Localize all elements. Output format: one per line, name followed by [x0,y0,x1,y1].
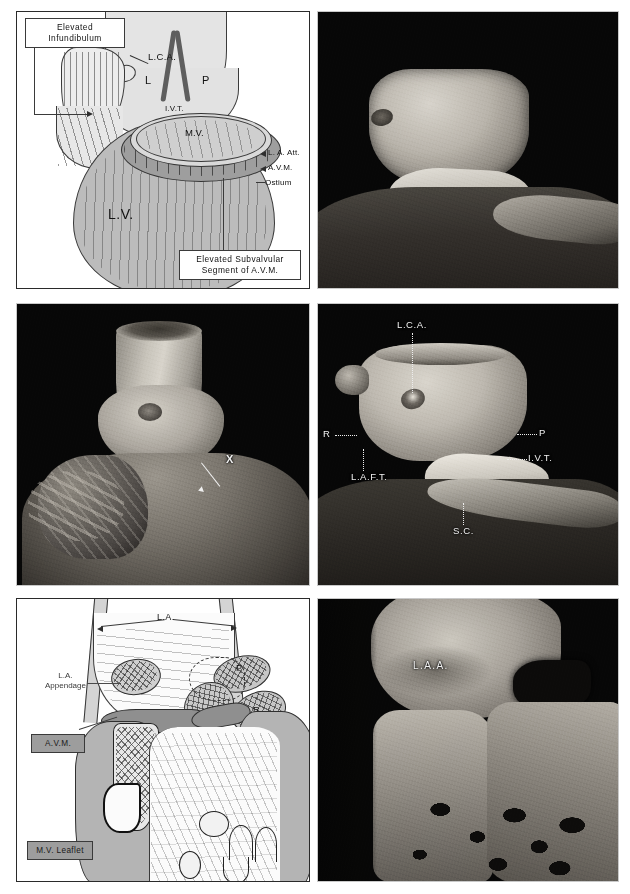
label-ivt: I.V.T. [165,104,184,113]
leader-elevated-infundibulum-arrow [87,111,93,117]
chordae-curl-1 [199,811,229,837]
chordae-hook-1 [229,825,253,860]
label-l: L [145,74,151,86]
arrow-la-att [260,151,266,157]
panel-bottom-right-photo: L.A.A. [317,598,619,882]
leader-elevated-subvalvular [223,178,224,250]
label-lca: L.C.A. [148,51,176,62]
label-la-appendage: L.A. Appendage [45,671,86,691]
label-elevated-subvalvular: Elevated Subvalvular Segment of A.V.M. [179,250,301,280]
label-ostium: Ostium [265,178,292,187]
label-elevated-subvalvular-line1: Elevated Subvalvular [185,254,295,265]
label-elevated-infundibulum: Elevated Infundibulum [25,18,125,48]
panel-top-left-diagram: Elevated Infundibulum L.C.A. L P I.V.T. … [16,11,310,289]
photo-grain-overlay-bottom-right [317,598,619,882]
la-arrow-head-left [97,626,103,632]
figure-plate: Elevated Infundibulum L.C.A. L P I.V.T. … [0,0,630,894]
panel-bottom-left-diagram: P R L.A. L.A. A [16,598,310,882]
label-mv-leaflet-box: M.V. Leaflet [27,841,93,860]
label-p: P [202,74,209,86]
photo-grain-overlay [317,11,619,289]
panel-middle-left-photo: X [16,303,310,586]
label-lv: L.V. [108,206,134,222]
arrow-avm [260,166,266,172]
chordae-curl-2 [179,851,201,879]
label-avm: A.V.M. [268,163,292,172]
photo-grain-overlay-middle-right [317,303,619,586]
dashed-outline-region [189,657,245,701]
label-elevated-subvalvular-line2: Segment of A.V.M. [185,265,295,276]
panel-middle-right-photo: L.C.A. R P I.V.T. L.A.F.T. S.C. [317,303,619,586]
label-elevated-infundibulum-line1: Elevated [31,22,119,33]
leader-elevated-infundibulum-h [34,114,91,115]
leader-elevated-infundibulum-v [34,48,35,115]
leader-ostium [256,182,265,183]
chordae-hook-3 [223,857,249,882]
label-la-appendage-line2: Appendage [45,681,86,691]
photo-grain-overlay-middle-left [16,303,310,586]
label-mv: M.V. [185,127,204,138]
la-arrow-head-right [231,625,237,631]
leader-la-appendage [87,683,121,684]
label-avm-box: A.V.M. [31,734,85,753]
label-la: L.A. [157,612,175,622]
panel-top-right-photo [317,11,619,289]
label-la-att: L. A. Att. [268,148,300,157]
mitral-valve-chordae [141,120,259,158]
label-elevated-infundibulum-line2: Infundibulum [31,33,119,44]
chordae-hook-2 [255,827,277,862]
papillary-notch [103,783,141,833]
label-la-appendage-line1: L.A. [45,671,86,681]
